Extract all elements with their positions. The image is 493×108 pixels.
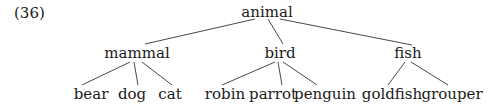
edge-mammal-cat: [142, 62, 172, 85]
leaf-dog: dog: [118, 85, 146, 103]
edge-mammal-bear: [82, 62, 130, 85]
edge-animal-bird: [268, 19, 283, 44]
node-bird: bird: [264, 44, 295, 62]
leaf-parrot: parrot: [249, 85, 297, 103]
edge-bird-penguin: [283, 62, 317, 85]
edge-animal-mammal: [145, 19, 255, 44]
edge-animal-fish: [280, 19, 412, 45]
node-animal: animal: [241, 3, 292, 21]
edge-bird-parrot: [278, 62, 282, 85]
leaf-cat: cat: [158, 85, 181, 103]
leaf-robin: robin: [205, 85, 245, 103]
edge-fish-grouper: [411, 62, 448, 85]
leaf-bear: bear: [74, 85, 109, 103]
example-number: (36): [14, 4, 45, 22]
edge-mammal-dog: [134, 62, 138, 85]
node-fish: fish: [394, 44, 421, 62]
edge-fish-goldfish: [388, 62, 405, 85]
leaf-goldfish: goldfish: [362, 85, 422, 103]
taxonomy-tree-diagram: (36) animal mammal bird fish bear dog ca…: [0, 0, 493, 108]
leaf-penguin: penguin: [294, 85, 356, 103]
leaf-grouper: grouper: [421, 85, 482, 103]
edge-bird-robin: [222, 62, 275, 85]
node-mammal: mammal: [104, 44, 169, 62]
